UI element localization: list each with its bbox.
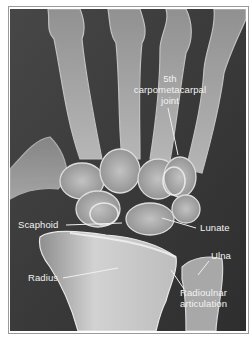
label-cmc-line2: carpometacarpal — [128, 84, 212, 95]
label-cmc-line1: 5th — [128, 73, 212, 84]
label-radioulnar-line2: articulation — [180, 298, 227, 309]
label-cmc-line3: joint — [128, 95, 212, 106]
label-radius: Radius — [28, 272, 58, 283]
label-5th-cmc-joint: 5th carpometacarpal joint — [128, 73, 212, 106]
wrist-xray-image: 5th carpometacarpal joint Scaphoid Lunat… — [10, 9, 246, 331]
label-radioulnar-articulation: Radioulnar articulation — [180, 287, 227, 309]
label-radioulnar-line1: Radioulnar — [180, 287, 227, 298]
label-scaphoid: Scaphoid — [18, 219, 58, 230]
label-ulna: Ulna — [211, 250, 231, 261]
label-lunate: Lunate — [200, 222, 230, 233]
